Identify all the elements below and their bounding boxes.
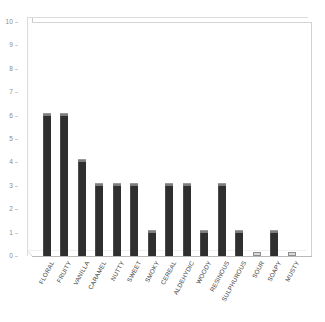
y-tick-label: 0: [9, 253, 13, 260]
x-tick-label: SOUR: [251, 260, 265, 279]
y-tick-mark: [15, 139, 18, 140]
x-axis-baseline: [32, 256, 312, 257]
bar-slot: [218, 22, 226, 256]
bar-slot: [165, 22, 173, 256]
bar-top-cap: [288, 252, 296, 256]
x-tick-label: CEREAL: [160, 260, 178, 286]
bar[interactable]: [60, 116, 68, 256]
bar-face: [60, 116, 68, 256]
bar-top-cap: [43, 113, 51, 116]
y-tick-mark: [15, 186, 18, 187]
bar-face: [95, 186, 103, 256]
bar-top-cap: [183, 183, 191, 186]
y-tick-mark: [15, 116, 18, 117]
y-tick-label: 2: [9, 206, 13, 213]
y-tick-label: 9: [9, 42, 13, 49]
bar-top-cap: [165, 183, 173, 186]
bar[interactable]: [95, 186, 103, 256]
bar[interactable]: [78, 162, 86, 256]
bar-slot: [113, 22, 121, 256]
bar-slot: [95, 22, 103, 256]
y-tick-label: 3: [9, 183, 13, 190]
x-tick-label: MUSTY: [284, 260, 300, 283]
bar[interactable]: [270, 233, 278, 256]
bar-face: [218, 186, 226, 256]
bar-face: [130, 186, 138, 256]
x-tick-label: WOODY: [196, 260, 213, 285]
y-tick-label: 10: [6, 19, 13, 26]
y-tick-label: 7: [9, 89, 13, 96]
bar[interactable]: [200, 233, 208, 256]
x-tick-label: SOAPY: [267, 260, 283, 283]
bar-face: [165, 186, 173, 256]
bar-top-cap: [218, 183, 226, 186]
y-tick-mark: [15, 162, 18, 163]
bar-slot: [78, 22, 86, 256]
y-tick-mark: [15, 209, 18, 210]
bar-slot: [183, 22, 191, 256]
bar-chart: 012345678910 FLORALFRUITYVANILLACARAMELN…: [0, 0, 325, 322]
bar-face: [235, 233, 243, 256]
bar-top-cap: [200, 230, 208, 233]
bar-face: [183, 186, 191, 256]
bar[interactable]: [43, 116, 51, 256]
bar[interactable]: [165, 186, 173, 256]
bar-slot: [253, 22, 261, 256]
bar-slot: [43, 22, 51, 256]
x-tick-label: NUTTY: [110, 260, 126, 282]
y-tick-mark: [15, 92, 18, 93]
bar-slot: [148, 22, 156, 256]
bar-top-cap: [130, 183, 138, 186]
y-tick-mark: [15, 22, 18, 23]
x-tick-label: FLORAL: [38, 260, 55, 285]
x-tick-label: SWEET: [127, 260, 143, 283]
bar-face: [200, 233, 208, 256]
bar-slot: [235, 22, 243, 256]
bar[interactable]: [183, 186, 191, 256]
bar-top-cap: [60, 113, 68, 116]
y-tick-label: 4: [9, 159, 13, 166]
x-tick-label: CARAMEL: [88, 260, 108, 291]
bar-top-cap: [113, 183, 121, 186]
bar-top-cap: [253, 252, 261, 256]
bar-face: [78, 162, 86, 256]
bar-slot: [270, 22, 278, 256]
y-tick-label: 8: [9, 66, 13, 73]
bar-top-cap: [235, 230, 243, 233]
bars-layer: [32, 22, 312, 256]
bar[interactable]: [113, 186, 121, 256]
x-tick-label: SMOKY: [144, 260, 160, 284]
y-axis: 012345678910: [0, 0, 32, 322]
bar-face: [113, 186, 121, 256]
bar-top-cap: [78, 159, 86, 162]
y-tick-mark: [15, 256, 18, 257]
bar[interactable]: [130, 186, 138, 256]
bar-top-cap: [148, 230, 156, 233]
y-tick-label: 1: [9, 229, 13, 236]
bar-slot: [288, 22, 296, 256]
bar-face: [148, 233, 156, 256]
y-tick-label: 5: [9, 136, 13, 143]
bar-slot: [60, 22, 68, 256]
y-tick-mark: [15, 69, 18, 70]
bar-slot: [200, 22, 208, 256]
bar-slot: [130, 22, 138, 256]
bar[interactable]: [148, 233, 156, 256]
y-tick-mark: [15, 45, 18, 46]
y-tick-label: 6: [9, 112, 13, 119]
x-tick-label: FRUITY: [56, 260, 73, 284]
bar[interactable]: [235, 233, 243, 256]
bar-top-cap: [270, 230, 278, 233]
x-axis-labels: FLORALFRUITYVANILLACARAMELNUTTYSWEETSMOK…: [32, 258, 312, 322]
bar-face: [270, 233, 278, 256]
bar-face: [43, 116, 51, 256]
bar[interactable]: [218, 186, 226, 256]
bar-top-cap: [95, 183, 103, 186]
y-tick-mark: [15, 233, 18, 234]
